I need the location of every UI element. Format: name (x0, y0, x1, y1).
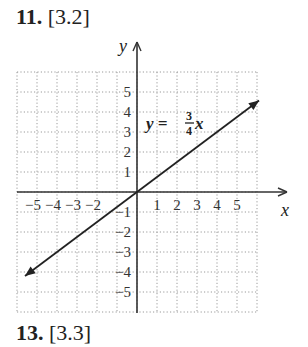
coordinate-plane: −5−4−3−21234554321−1−2−3−4−5 x y y = 3 4… (0, 0, 308, 347)
svg-text:−5: −5 (25, 197, 41, 213)
plotted-line (25, 101, 259, 277)
svg-text:2: 2 (173, 197, 181, 213)
svg-text:1: 1 (153, 197, 161, 213)
svg-text:4: 4 (213, 197, 221, 213)
svg-text:−2: −2 (85, 197, 101, 213)
equation-label: y = 3 4 x (144, 109, 204, 138)
svg-text:1: 1 (124, 164, 132, 180)
svg-text:5: 5 (233, 197, 241, 213)
svg-text:x: x (194, 114, 204, 133)
svg-text:5: 5 (124, 84, 132, 100)
svg-text:−3: −3 (65, 197, 81, 213)
svg-text:3: 3 (193, 197, 201, 213)
svg-text:−4: −4 (115, 264, 131, 280)
svg-text:4: 4 (124, 104, 132, 120)
svg-text:−2: −2 (115, 224, 131, 240)
svg-text:3: 3 (186, 109, 192, 123)
svg-text:4: 4 (186, 124, 192, 138)
svg-text:−3: −3 (115, 244, 131, 260)
x-axis-label: x (280, 200, 289, 220)
svg-text:y =: y = (144, 114, 167, 133)
svg-text:3: 3 (124, 124, 132, 140)
y-axis-label: y (117, 36, 127, 56)
problem-13-label: 13. [3.3] (16, 320, 91, 346)
svg-text:−5: −5 (115, 284, 131, 300)
svg-text:−4: −4 (45, 197, 61, 213)
svg-text:2: 2 (124, 144, 132, 160)
problem-section: [3.3] (49, 320, 91, 345)
problem-number: 13. (16, 320, 44, 345)
